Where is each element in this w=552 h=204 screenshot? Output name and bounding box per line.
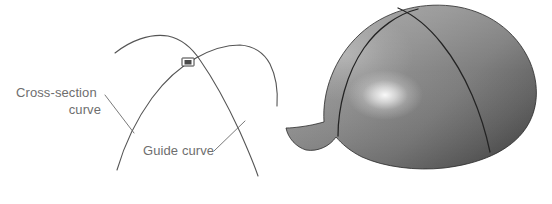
shaded-surface-panel <box>272 0 552 204</box>
surface-shading-group <box>272 0 552 204</box>
figure-root: Cross-section curve Guide curve <box>0 0 552 204</box>
cross-section-leader-line <box>105 95 134 133</box>
guide-leader-line <box>214 121 245 151</box>
surface-specular-highlight <box>347 70 423 120</box>
guide-curve-label: Guide curve <box>143 143 214 158</box>
wireframe-svg: Cross-section curve Guide curve <box>0 0 280 204</box>
surface-svg <box>272 0 552 204</box>
cross-section-label-line1: Cross-section <box>16 85 97 100</box>
cross-section-label-line2: curve <box>69 102 101 117</box>
curve-intersection-marker <box>182 58 194 66</box>
curve-wireframe-panel: Cross-section curve Guide curve <box>0 0 280 204</box>
